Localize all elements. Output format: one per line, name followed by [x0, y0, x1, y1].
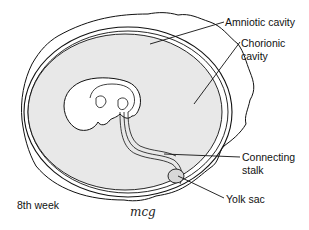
label-stage: 8th week: [17, 199, 59, 211]
label-amniotic-cavity: Amniotic cavity: [225, 16, 295, 28]
label-connecting-stalk-line2: stalk: [242, 164, 264, 176]
label-yolk-sac: Yolk sac: [226, 193, 265, 205]
artist-signature: mcg: [130, 205, 156, 219]
label-chorionic-cavity-line1: Chorionic: [241, 37, 285, 49]
label-chorionic-cavity-line2: cavity: [241, 50, 268, 62]
yolk-sac: [168, 169, 184, 183]
label-connecting-stalk-line1: Connecting: [242, 151, 295, 163]
